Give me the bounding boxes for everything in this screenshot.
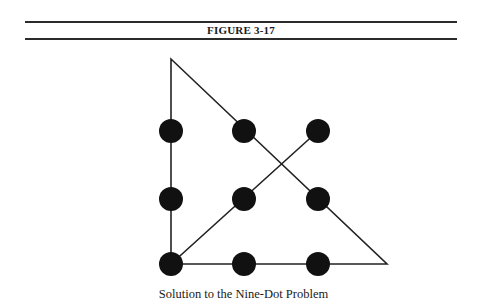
dot-r2-c3 [306,187,330,211]
dot-r3-c3 [306,252,330,276]
dot-r3-c1 [159,252,183,276]
dot-r2-c2 [232,187,256,211]
solution-path [171,59,387,264]
dot-r2-c1 [159,187,183,211]
dot-r3-c2 [232,252,256,276]
dot-r1-c3 [306,119,330,143]
nine-dot-diagram [0,0,487,307]
dot-r1-c1 [159,119,183,143]
dot-r1-c2 [232,119,256,143]
figure-caption: Solution to the Nine-Dot Problem [0,286,487,302]
